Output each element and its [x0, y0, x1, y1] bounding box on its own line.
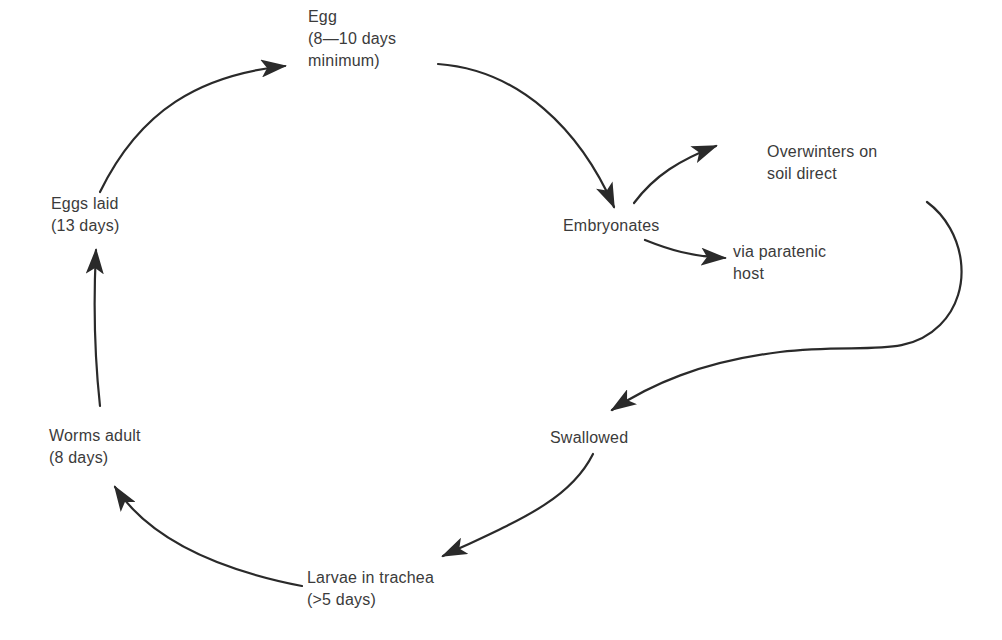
node-worms-adult-duration: (8 days) [49, 447, 141, 469]
node-overwinters: Overwinters on soil direct [767, 141, 877, 185]
arrow-swallowed-to-larvae [443, 454, 593, 556]
node-paratenic-line1: via paratenic [733, 241, 826, 263]
node-eggs-laid-duration: (13 days) [51, 215, 120, 237]
node-embryonates-title: Embryonates [563, 215, 659, 237]
node-worms-adult: Worms adult (8 days) [49, 425, 141, 469]
node-egg-duration: (8—10 days [308, 28, 396, 50]
node-worms-adult-title: Worms adult [49, 425, 141, 447]
node-eggs-laid: Eggs laid (13 days) [51, 193, 120, 237]
node-egg: Egg (8—10 days minimum) [308, 6, 396, 72]
arrow-larvae-to-worms [115, 487, 302, 586]
node-overwinters-line1: Overwinters on [767, 141, 877, 163]
arrow-overwinters-to-swallowed [612, 202, 962, 410]
node-larvae-in-trachea: Larvae in trachea (>5 days) [307, 567, 434, 611]
node-swallowed-title: Swallowed [550, 427, 628, 449]
arrow-eggs-laid-to-egg [100, 66, 285, 192]
node-larvae-title: Larvae in trachea [307, 567, 434, 589]
node-larvae-duration: (>5 days) [307, 589, 434, 611]
node-egg-duration-cont: minimum) [308, 50, 396, 72]
life-cycle-arrows [0, 0, 1002, 640]
node-egg-title: Egg [308, 6, 396, 28]
node-paratenic-host: via paratenic host [733, 241, 826, 285]
node-eggs-laid-title: Eggs laid [51, 193, 120, 215]
arrow-worms-to-eggs-laid [95, 250, 100, 406]
arrow-embryonates-to-paratenic [645, 240, 725, 258]
node-paratenic-line2: host [733, 263, 826, 285]
node-swallowed: Swallowed [550, 427, 628, 449]
node-embryonates: Embryonates [563, 215, 659, 237]
node-overwinters-line2: soil direct [767, 163, 877, 185]
arrow-embryonates-to-overwinters [634, 146, 716, 203]
arrow-egg-to-embryonates [438, 64, 614, 207]
